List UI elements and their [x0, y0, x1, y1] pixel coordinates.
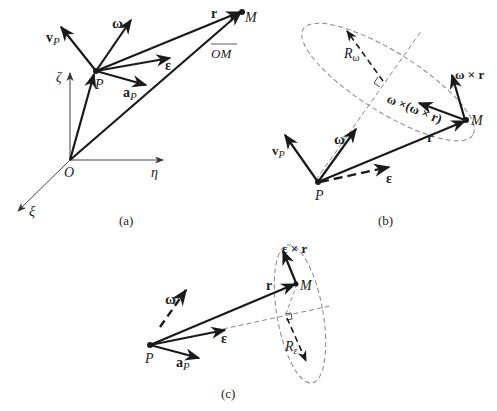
label-eta: η: [151, 165, 158, 180]
label-OM: OM: [211, 46, 232, 61]
M-to-center-line: [286, 284, 297, 314]
panel-c: ε × r r M ω ε P aP Rε (c): [144, 241, 335, 401]
label-M: M: [299, 278, 313, 293]
point-M: [294, 282, 299, 287]
vector-epsilon: [150, 330, 225, 345]
label-xi: ξ: [29, 204, 35, 219]
xi-axis: [18, 160, 70, 211]
label-zeta: ζ: [56, 70, 63, 85]
point-P: [93, 68, 99, 74]
point-P: [315, 179, 321, 185]
label-aP: aP: [176, 355, 190, 372]
label-R-epsilon: Rε: [284, 339, 298, 356]
vector-OP: [70, 74, 94, 160]
label-omega: ω: [165, 291, 176, 307]
label-P: P: [314, 188, 324, 203]
panel-a: vP ω r M OM ε P aP ζ O η ξ (a): [18, 6, 258, 228]
vector-epsilon: [320, 167, 389, 182]
right-angle-mark: [374, 77, 380, 87]
label-omega-cross-r: ω × r: [455, 67, 484, 82]
vector-vP: [61, 27, 96, 71]
label-omega: ω: [334, 131, 345, 147]
panel-b: Rω ω × r ω ×(ω × r) M r ω vP ε P (b): [272, 4, 489, 228]
label-aP: aP: [123, 85, 137, 102]
label-P: P: [144, 351, 154, 366]
vector-aP: [150, 345, 199, 358]
label-r: r: [427, 130, 433, 145]
label-omega: ω: [112, 15, 123, 31]
label-M: M: [244, 10, 258, 25]
rotation-circle: [265, 241, 335, 387]
label-epsilon: ε: [221, 331, 227, 346]
label-epsilon: ε: [165, 58, 171, 73]
label-vP: vP: [46, 30, 60, 47]
caption-a: (a): [119, 213, 133, 228]
caption-c: (c): [221, 386, 235, 401]
caption-b: (b): [378, 213, 393, 228]
kinematics-diagram: vP ω r M OM ε P aP ζ O η ξ (a): [0, 0, 497, 411]
label-O: O: [64, 165, 74, 180]
label-R-omega: Rω: [343, 46, 360, 63]
label-r: r: [266, 278, 272, 293]
label-epsilon-cross-r: ε × r: [282, 241, 307, 256]
right-angle-mark: [285, 313, 292, 320]
point-P: [147, 342, 153, 348]
vector-vP: [285, 135, 318, 182]
label-r: r: [211, 6, 217, 21]
label-M: M: [470, 113, 484, 128]
vector-epsilon: [96, 58, 170, 71]
label-P: P: [94, 77, 104, 92]
label-vP: vP: [272, 143, 285, 160]
label-epsilon: ε: [386, 171, 392, 186]
point-M: [463, 117, 469, 123]
label-centripetal: ω ×(ω × r): [385, 91, 444, 127]
